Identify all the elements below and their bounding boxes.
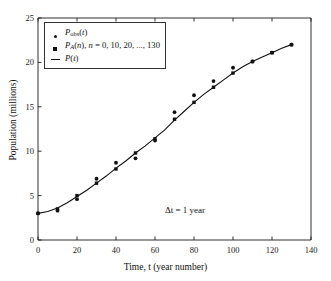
- x-tick-label: 80: [190, 246, 199, 255]
- x-tick-label: 60: [151, 246, 160, 255]
- data-point-approx: [56, 207, 59, 210]
- chart-legend: Pobs(t) PA(n), n = 0, 10, 20, ..., 130 P…: [44, 22, 166, 69]
- line-marker-icon: [49, 50, 61, 68]
- x-tick-label: 140: [305, 246, 318, 255]
- data-point-approx: [36, 212, 39, 215]
- x-tick-label: 120: [266, 246, 279, 255]
- delta-t-annotation: Δt = 1 year: [165, 205, 205, 215]
- data-point-observed: [114, 161, 118, 165]
- y-tick-label: 0: [14, 236, 34, 245]
- data-point-observed: [75, 197, 79, 201]
- data-point-approx: [134, 151, 137, 154]
- model-curve: [38, 45, 292, 214]
- legend-label-p-t: P(t): [65, 54, 78, 63]
- model-curve-group: [38, 45, 292, 214]
- data-point-observed: [173, 110, 177, 114]
- legend-item-p-obs: Pobs(t): [49, 26, 160, 39]
- data-point-approx: [290, 43, 293, 46]
- x-axis-label: Time, t (year number): [0, 262, 331, 272]
- legend-label-p-a: PA(n), n = 0, 10, 20, ..., 130: [65, 41, 160, 51]
- data-point-approx: [251, 60, 254, 63]
- x-tick-label: 100: [227, 246, 240, 255]
- data-point-approx: [231, 71, 234, 74]
- data-point-approx: [270, 51, 273, 54]
- data-point-observed: [95, 177, 99, 181]
- data-point-observed: [231, 66, 235, 70]
- data-point-approx: [212, 86, 215, 89]
- y-tick-label: 5: [14, 191, 34, 200]
- data-point-approx: [114, 167, 117, 170]
- data-point-approx: [173, 118, 176, 121]
- legend-item-p-t: P(t): [49, 52, 160, 65]
- data-point-approx: [75, 194, 78, 197]
- data-point-observed: [134, 156, 138, 160]
- y-axis-label: Population (millions): [8, 55, 18, 185]
- x-tick-label: 40: [112, 246, 121, 255]
- population-chart-figure: 0204060801001201400510152025 Population …: [0, 0, 331, 281]
- legend-item-p-a: PA(n), n = 0, 10, 20, ..., 130: [49, 39, 160, 52]
- data-point-observed: [192, 93, 196, 97]
- x-tick-label: 20: [73, 246, 82, 255]
- x-tick-label: 0: [36, 246, 40, 255]
- data-point-approx: [192, 101, 195, 104]
- legend-label-p-obs: Pobs(t): [65, 28, 87, 38]
- data-point-approx: [153, 137, 156, 140]
- data-point-approx: [95, 181, 98, 184]
- data-point-observed: [212, 79, 216, 83]
- y-tick-label: 25: [14, 14, 34, 23]
